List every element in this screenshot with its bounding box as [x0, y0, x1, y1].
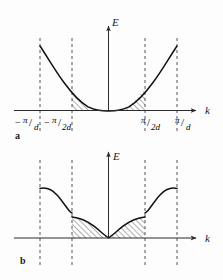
tick-denominator: d	[186, 122, 191, 132]
panel-label-a: a	[15, 130, 20, 141]
k-axis-label-a: k	[205, 104, 211, 116]
second-band-left-branch-b	[40, 188, 72, 213]
tick-numerator: π	[52, 115, 57, 125]
second-band-right-branch-b	[145, 188, 177, 213]
band-structure-figure: E E k k − π / d − π / 2d π / 2d π / d	[0, 0, 223, 280]
tick-denominator: 2d	[62, 122, 72, 132]
tick-denominator: d	[34, 122, 39, 132]
tick-label-pi-over-2d: π / 2d	[141, 115, 161, 132]
panel-b-group	[14, 152, 196, 268]
tick-label-minus-pi-over-2d: − π / 2d	[44, 115, 72, 132]
tick-numerator: π	[141, 115, 146, 125]
tick-denominator: 2d	[151, 122, 161, 132]
k-axis-label-b: k	[205, 232, 211, 244]
panel-label-b: b	[20, 255, 26, 266]
tick-slash: /	[29, 116, 33, 128]
tick-numerator: π	[23, 115, 28, 125]
tick-sign: −	[15, 117, 21, 128]
e-axis-label-b: E	[112, 150, 120, 162]
tick-numerator: π	[175, 115, 180, 125]
figure-canvas: E E k k − π / d − π / 2d π / 2d π / d	[0, 0, 223, 280]
tick-slash: /	[181, 116, 185, 128]
e-axis-label-a: E	[111, 16, 119, 28]
panel-a-group	[14, 26, 196, 132]
tick-sign: −	[44, 117, 50, 128]
